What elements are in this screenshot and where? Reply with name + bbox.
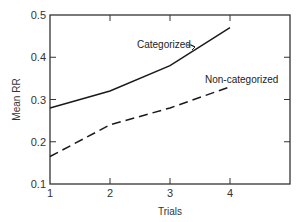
annotation-non-categorized: Non-categorized [205,74,278,85]
y-axis-label: Mean RR [11,78,22,120]
y-tick-label: 0.3 [31,94,46,106]
y-tick-label: 0.1 [31,178,46,190]
x-tick-label: 1 [47,187,53,199]
x-axis-label: Trials [158,206,182,217]
x-tick-label: 4 [227,187,233,199]
tick-labels: 12340.10.20.30.40.5 [31,9,233,199]
series-line-non-categorized [50,87,230,157]
y-tick-label: 0.2 [31,136,46,148]
annotation-categorized: Categorized [137,39,191,50]
y-tick-label: 0.5 [31,9,46,21]
x-tick-label: 2 [107,187,113,199]
line-chart: 12340.10.20.30.40.5 Trials Mean RR Categ… [0,0,304,222]
x-tick-label: 3 [167,187,173,199]
y-tick-label: 0.4 [31,51,46,63]
